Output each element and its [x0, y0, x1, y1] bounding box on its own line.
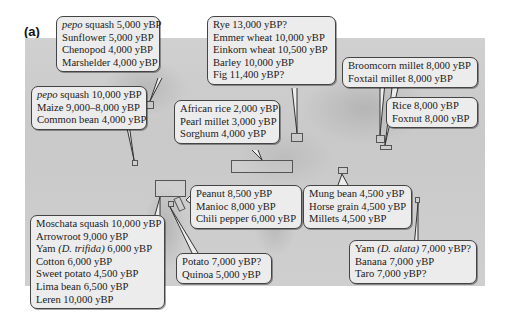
crop-line: Sweet potato 4,500 yBP [36, 268, 159, 281]
crop-line: Manioc 8,000 yBP [196, 201, 296, 214]
marker-new-guinea [415, 197, 420, 203]
crop-line: Chili pepper 6,000 yBP [196, 213, 296, 226]
crop-line: pepo squash 10,000 yBP [37, 89, 141, 102]
crop-line: Sunflower 5,000 yBP [62, 32, 154, 45]
marker-india [338, 167, 348, 174]
crop-line: Banana 7,000 yBP [355, 256, 471, 269]
marker-mesoamerica [132, 160, 138, 166]
crop-line: Moschata squash 10,000 yBP [36, 218, 159, 231]
callout-north-america: pepo squash 5,000 yBP Sunflower 5,000 yB… [56, 16, 160, 72]
crop-line: Arrowroot 9,000 yBP [36, 231, 159, 244]
marker-sub-saharan-africa [231, 160, 293, 173]
crop-line: Pearl millet 3,000 yBP [180, 116, 274, 129]
marker-south-china [380, 145, 392, 150]
crop-line: Barley 10,000 yBP [213, 57, 330, 70]
crop-line: Marshelder 4,000 yBP [62, 57, 154, 70]
crop-line: Mung bean 4,500 yBP [309, 188, 406, 201]
marker-andes [168, 201, 174, 207]
crop-line: Horse grain 4,500 yBP [309, 201, 406, 214]
crop-line: Chenopod 4,000 yBP [62, 44, 154, 57]
callout-north-china: Broomcorn millet 8,000 yBP Foxtail mille… [342, 57, 478, 88]
callout-mesoamerica: pepo squash 10,000 yBP Maize 9,000–8,000… [31, 86, 147, 130]
callout-india: Mung bean 4,500 yBP Horse grain 4,500 yB… [303, 185, 412, 229]
callout-eastern-south-america: Peanut 8,500 yBP Manioc 8,000 yBP Chili … [190, 185, 302, 229]
callout-northern-south-america: Moschata squash 10,000 yBP Arrowroot 9,0… [30, 215, 165, 309]
crop-line: Leren 10,000 yBP [36, 294, 159, 307]
crop-line: pepo squash 5,000 yBP [62, 19, 154, 32]
crop-line: Emmer wheat 10,000 yBP [213, 32, 330, 45]
crop-line: Lima bean 6,500 yBP [36, 281, 159, 294]
crop-line: Fig 11,400 yBP? [213, 69, 330, 82]
crop-line: Quinoa 5,000 yBP [182, 269, 266, 282]
callout-sub-saharan-africa: African rice 2,000 yBP Pearl millet 3,00… [174, 100, 280, 144]
callout-new-guinea: Yam (D. alata) 7,000 yBP? Banana 7,000 y… [349, 240, 477, 284]
crop-line: African rice 2,000 yBP [180, 103, 274, 116]
crop-line: Cotton 6,000 yBP [36, 256, 159, 269]
marker-fertile-crescent [291, 133, 303, 142]
marker-north-china [376, 135, 385, 143]
marker-north-america [146, 101, 154, 109]
crop-line: Yam (D. trifida) 6,000 yBP [36, 243, 159, 256]
crop-line: Foxnut 8,000 yBP [392, 113, 472, 126]
crop-line: Common bean 4,000 yBP [37, 114, 141, 127]
callout-south-china: Rice 8,000 yBP Foxnut 8,000 yBP [386, 97, 478, 128]
crop-line: Rye 13,000 yBP? [213, 19, 330, 32]
panel-label: (a) [24, 24, 40, 39]
crop-line: Broomcorn millet 8,000 yBP [348, 60, 472, 73]
crop-line: Sorghum 4,000 yBP [180, 128, 274, 141]
crop-line: Rice 8,000 yBP [392, 100, 472, 113]
marker-northern-south-america [155, 180, 186, 197]
callout-fertile-crescent: Rye 13,000 yBP? Emmer wheat 10,000 yBP E… [207, 16, 336, 85]
crop-line: Taro 7,000 yBP? [355, 268, 471, 281]
crop-line: Potato 7,000 yBP? [182, 256, 266, 269]
crop-line: Foxtail millet 8,000 yBP [348, 73, 472, 86]
crop-line: Einkorn wheat 10,500 yBP [213, 44, 330, 57]
crop-line: Yam (D. alata) 7,000 yBP? [355, 243, 471, 256]
callout-andes: Potato 7,000 yBP? Quinoa 5,000 yBP [176, 253, 272, 284]
crop-line: Millets 4,500 yBP [309, 213, 406, 226]
crop-line: Peanut 8,500 yBP [196, 188, 296, 201]
crop-line: Maize 9,000–8,000 yBP [37, 102, 141, 115]
